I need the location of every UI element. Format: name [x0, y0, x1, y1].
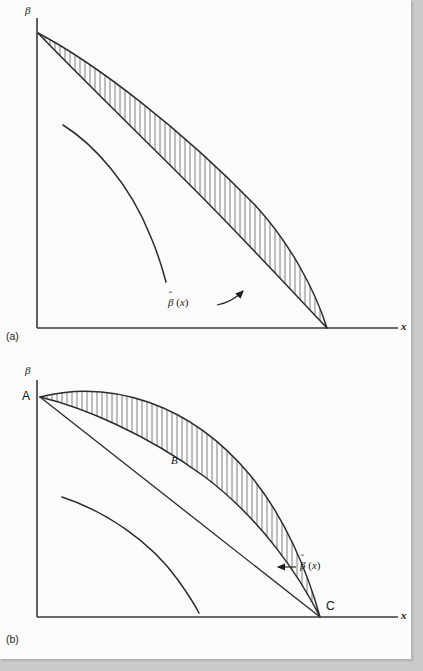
hatched-region-a	[40, 0, 325, 345]
beta-hat-label-b: βˆ (x)	[300, 560, 320, 571]
y-axis-label-a: β	[25, 5, 30, 16]
hatched-region-b	[42, 345, 317, 659]
panel-label-b: (b)	[6, 634, 19, 645]
beta-symbol-a: βˆ	[168, 297, 173, 308]
indifference-curve-b	[62, 497, 199, 613]
hat-accent-b: ˆ	[301, 554, 304, 564]
beta-hat-curve-a	[38, 33, 327, 328]
beta-hat-arg-b: (x)	[305, 559, 320, 571]
hat-accent-a: ˆ	[169, 291, 172, 301]
indifference-curve-a	[63, 125, 166, 282]
panel-a: β x βˆ (x) (a)	[0, 0, 411, 345]
beta-hat-label-a: βˆ (x)	[168, 297, 188, 308]
point-label-c: C	[326, 600, 335, 612]
beta-hat-arg-a: (x)	[173, 296, 188, 308]
panel-b: β x A B C βˆ (x) (b)	[0, 345, 411, 659]
panel-a-plot	[0, 0, 411, 345]
panel-label-a: (a)	[6, 331, 19, 342]
y-axis-label-b: β	[25, 365, 30, 376]
beta-symbol-b: βˆ	[300, 560, 305, 571]
panel-b-plot	[0, 345, 411, 659]
point-label-b: B	[171, 455, 178, 466]
x-axis-label-b: x	[401, 610, 407, 621]
annotation-leader-a	[217, 291, 243, 305]
x-axis-label-a: x	[401, 321, 407, 332]
point-label-a: A	[22, 390, 30, 402]
